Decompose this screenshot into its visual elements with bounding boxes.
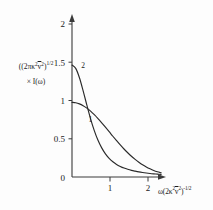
x-tick-marks: [110, 177, 148, 182]
y-tick-label-0: 0: [61, 173, 66, 183]
x-tick-label-2: 2: [146, 183, 151, 193]
curve-label-2: 2: [81, 61, 85, 70]
y-label-exponent: 1/2: [46, 61, 53, 66]
plot-area: 2 1 2 1.5 1 0.5 0 1 2: [0, 0, 213, 210]
y-axis-label-line1: ((2πκ2v2)1/2: [19, 62, 54, 71]
y-label-open: (2πκ: [21, 62, 35, 71]
y-axis: [69, 14, 75, 177]
y-tick-label-2: 2: [61, 19, 66, 29]
x-label-open: (2κ: [163, 187, 173, 196]
curve-series-1: [72, 102, 161, 173]
y-axis-arrowhead: [69, 14, 75, 22]
x-tick-label-1: 1: [108, 183, 113, 193]
x-axis-arrowhead: [158, 174, 166, 180]
y-axis-label: ((2πκ2v2)1/2 × I(ω): [5, 57, 67, 88]
curve-series-2: [72, 65, 161, 174]
figure-container: 2 1 2 1.5 1 0.5 0 1 2 ((2πκ2v2)1/2 × I(ω…: [0, 0, 213, 210]
y-tick-label-1: 1: [61, 96, 66, 106]
y-axis-label-line2: × I(ω): [5, 75, 67, 88]
curve-label-1: 1: [89, 115, 93, 124]
x-axis-label: ω(2κ2v2)-1/2: [158, 185, 191, 196]
x-axis: [72, 174, 166, 180]
y-tick-label-0p5: 0.5: [54, 134, 66, 144]
x-label-exponent: -1/2: [183, 186, 191, 191]
